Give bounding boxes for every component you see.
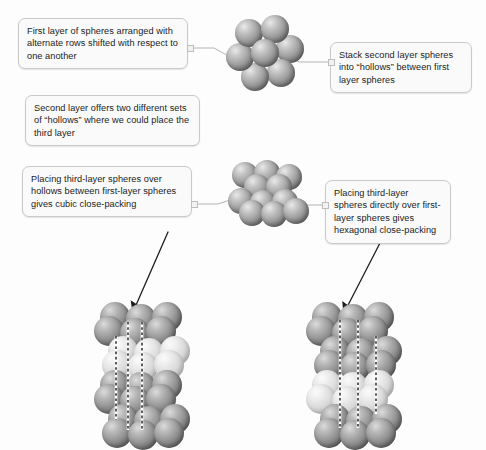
callout-second-layer-stack[interactable]: Stack second layer spheres into “hollows… xyxy=(330,42,472,93)
connector-anchor-ccp xyxy=(191,201,198,208)
callout-first-layer[interactable]: First layer of spheres arranged with alt… xyxy=(18,18,188,69)
connector-anchor-first-layer xyxy=(187,45,194,52)
callout-text: Second layer offers two different sets o… xyxy=(34,102,192,139)
cluster-single-layer-hexagon xyxy=(224,12,306,94)
arrow-line-ccp xyxy=(133,232,168,312)
cluster-ccp-stack xyxy=(98,302,210,438)
connector-anchor-second-layer-stack xyxy=(328,59,335,66)
callout-text: Placing third-layer spheres over hollows… xyxy=(31,173,184,210)
cluster-two-layer-stack xyxy=(222,158,312,232)
sphere xyxy=(154,418,184,448)
callout-text: Stack second layer spheres into “hollows… xyxy=(339,49,464,86)
callout-text: First layer of spheres arranged with alt… xyxy=(27,25,180,62)
sphere xyxy=(283,198,309,224)
callout-second-layer-hollows[interactable]: Second layer offers two different sets o… xyxy=(25,95,200,146)
callout-hexagonal-close-packing[interactable]: Placing third-layer spheres directly ove… xyxy=(325,180,451,244)
callout-text: Placing third-layer spheres directly ove… xyxy=(334,187,443,237)
connector-anchor-hcp xyxy=(322,202,329,209)
cluster-hcp-stack xyxy=(310,302,422,438)
sphere xyxy=(366,418,396,448)
sphere xyxy=(251,39,279,67)
callout-cubic-close-packing[interactable]: Placing third-layer spheres over hollows… xyxy=(22,166,192,217)
